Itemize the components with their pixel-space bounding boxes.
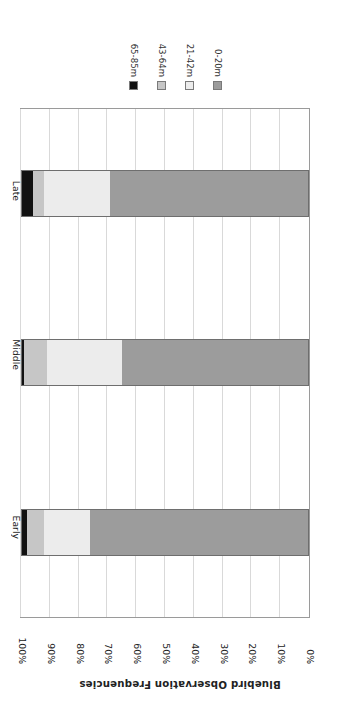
legend-item[interactable]: 65-85m [120,44,148,90]
bar-segment[interactable] [110,170,309,217]
bar-group-late [21,170,309,217]
x-tick-label: 40% [190,643,201,664]
bar-segment[interactable] [33,170,45,217]
legend-swatch-icon [214,81,223,90]
x-tick-label: 100% [17,637,28,664]
bar-segment[interactable] [44,509,90,556]
x-tick-label: 60% [132,643,143,664]
stacked-bar[interactable] [21,170,309,217]
x-tick-label: 0% [305,649,316,664]
x-tick-label: 80% [75,643,86,664]
legend-item[interactable]: 0-20m [204,49,232,90]
legend-label: 43-64m [158,44,167,77]
plot-area [20,108,310,618]
bar-segment[interactable] [122,340,309,387]
bar-segment[interactable] [24,340,47,387]
x-tick-label: 10% [276,643,287,664]
stacked-bar[interactable] [21,340,309,387]
bar-segment[interactable] [21,170,33,217]
x-tick-label: 20% [247,643,258,664]
x-tick-label: 90% [46,643,57,664]
x-tick-label: 30% [219,643,230,664]
category-label: Early [0,516,22,539]
bar-group-middle [21,340,309,387]
axis-title: Bluebird Observation Frequencies [0,679,360,690]
bar-segment[interactable] [44,170,110,217]
bar-segment[interactable] [47,340,122,387]
chart-figure: 65-85m43-64m21-42m0-20m 0%10%20%30%40%50… [0,0,360,726]
x-tick-label: 50% [161,643,172,664]
legend-label: 65-85m [130,44,139,77]
chart-legend: 65-85m43-64m21-42m0-20m [120,14,232,90]
legend-swatch-icon [158,81,167,90]
category-label: Late [0,180,22,200]
legend-swatch-icon [186,81,195,90]
legend-label: 0-20m [214,49,223,77]
x-tick-label: 70% [103,643,114,664]
bar-group-early [21,509,309,556]
category-label: Middle [0,339,22,370]
legend-item[interactable]: 43-64m [148,44,176,90]
legend-label: 21-42m [186,44,195,77]
stacked-bar[interactable] [21,509,309,556]
bar-segment[interactable] [27,509,44,556]
category-axis-labels: EarlyMiddleLate [0,110,22,618]
bar-segment[interactable] [90,509,309,556]
legend-swatch-icon [130,81,139,90]
legend-item[interactable]: 21-42m [176,44,204,90]
